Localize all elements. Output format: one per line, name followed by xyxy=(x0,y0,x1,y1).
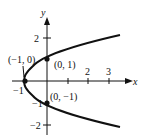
y-tick-label-neg1: −1 xyxy=(32,98,43,109)
y-tick-label-neg2: −2 xyxy=(30,120,41,131)
y-axis-label: y xyxy=(40,7,46,18)
x-tick-label-2: 2 xyxy=(85,66,90,77)
y-tick-label-2: 2 xyxy=(34,33,39,44)
x-tick-label-3: 3 xyxy=(106,66,111,77)
point-vertex xyxy=(22,78,27,83)
point-0-neg1 xyxy=(44,100,49,105)
x-axis-arrow-icon xyxy=(125,78,133,84)
vertex-leader-line xyxy=(23,66,24,77)
y-axis-arrow-icon xyxy=(44,17,50,25)
point-label-vertex: (−1, 0) xyxy=(8,54,35,66)
parabola-diagram: y x 2 3 −1 2 −1 −2 (−1, 0) (0, 1) (0, −1… xyxy=(0,0,141,138)
point-label-0-neg1: (0, −1) xyxy=(50,91,77,103)
point-label-0-1: (0, 1) xyxy=(54,59,76,71)
x-axis-label: x xyxy=(132,76,138,87)
point-0-1 xyxy=(44,56,49,61)
x-tick-label-neg1: −1 xyxy=(13,85,24,96)
